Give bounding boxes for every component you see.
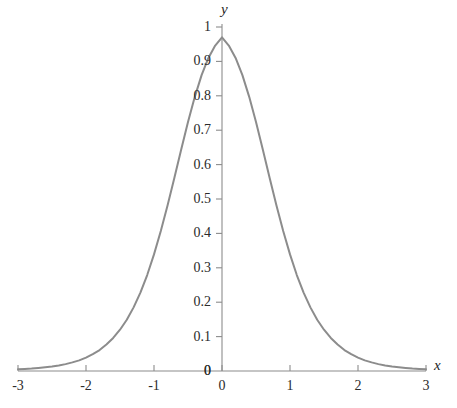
y-tick-label: 0.3	[171, 261, 211, 275]
x-axis-ticks	[18, 365, 426, 371]
y-axis-ticks	[216, 27, 222, 337]
y-tick-label: 0.4	[171, 226, 211, 240]
y-axis-title: y	[221, 2, 228, 17]
y-tick-label: 0.7	[171, 123, 211, 137]
x-tick-label: 3	[406, 379, 446, 393]
y-tick-label: 0.5	[171, 192, 211, 206]
y-tick-label: 1	[171, 20, 211, 34]
x-tick-label: -1	[134, 379, 174, 393]
axis-lines	[18, 24, 426, 371]
y-tick-label: 0.2	[171, 295, 211, 309]
y-tick-label: 0.6	[171, 158, 211, 172]
y-tick-label: 0.1	[171, 330, 211, 344]
origin-label: 0	[171, 364, 211, 378]
plot-canvas	[0, 0, 457, 408]
y-tick-label: 0.9	[171, 54, 211, 68]
x-tick-label: 1	[270, 379, 310, 393]
x-axis-title: x	[434, 358, 441, 373]
x-tick-label: 2	[338, 379, 378, 393]
chart-figure: 00.10.20.30.40.50.60.70.80.910 -3-2-1012…	[0, 0, 457, 408]
x-tick-label: 0	[202, 379, 242, 393]
y-tick-label: 0.8	[171, 89, 211, 103]
x-tick-label: -2	[66, 379, 106, 393]
x-tick-label: -3	[0, 379, 38, 393]
